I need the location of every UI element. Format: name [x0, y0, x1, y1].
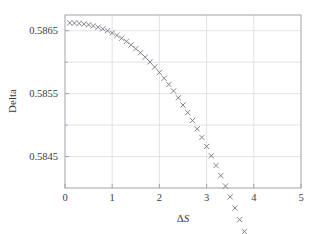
y-axis-title: Delta: [6, 89, 18, 113]
x-axis-title: ΔS: [177, 212, 190, 224]
y-tick-label: 0.5855: [29, 88, 58, 99]
data-point-marker: [242, 229, 247, 234]
chart-figure: 012345 0.58450.58550.5865 ΔS Delta: [0, 0, 316, 234]
x-axis-tick-labels: 012345: [62, 192, 303, 203]
x-tick-label: 0: [62, 192, 67, 203]
x-tick-label: 5: [298, 192, 303, 203]
y-axis-tick-labels: 0.58450.58550.5865: [29, 25, 58, 162]
y-tick-label: 0.5845: [29, 151, 58, 162]
plot-canvas: 012345 0.58450.58550.5865 ΔS Delta: [0, 0, 316, 234]
x-tick-label: 4: [251, 192, 257, 203]
x-tick-label: 1: [110, 192, 115, 203]
data-point-marker: [237, 217, 242, 222]
x-tick-label: 3: [204, 192, 209, 203]
data-point-marker: [232, 205, 237, 210]
x-tick-label: 2: [157, 192, 162, 203]
y-tick-label: 0.5865: [29, 25, 58, 36]
data-point-marker: [228, 194, 233, 199]
plot-background: [65, 15, 301, 188]
